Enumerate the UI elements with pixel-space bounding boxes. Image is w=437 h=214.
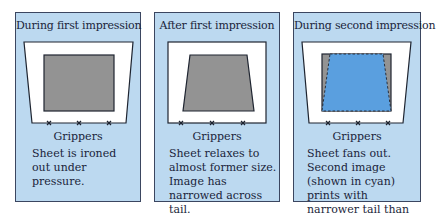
grippers-label: Grippers: [155, 130, 279, 143]
panel-caption: Sheet is ironed out under pressure.: [32, 147, 126, 189]
first-image: [44, 55, 114, 111]
panel-during-second-impression: During second impression Grippers Sheet …: [293, 12, 421, 202]
panel-caption: Sheet relaxes to almost former size. Ima…: [169, 147, 277, 214]
grippers-label: Grippers: [294, 130, 420, 143]
second-image-cyan: [322, 54, 391, 111]
grippers-label: Grippers: [16, 130, 140, 143]
first-image-narrowed: [183, 55, 254, 111]
panel-during-first-impression: During first impression Grippers Sheet i…: [15, 12, 141, 202]
panel-after-first-impression: After first impression Grippers Sheet re…: [154, 12, 280, 202]
panel-caption: Sheet fans out. Second image (shown in c…: [307, 147, 418, 214]
